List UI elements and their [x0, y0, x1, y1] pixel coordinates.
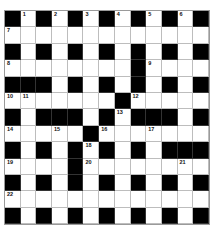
answer-cell[interactable] [21, 208, 37, 224]
answer-cell[interactable]: 4 [115, 11, 131, 27]
answer-cell[interactable] [21, 159, 37, 175]
answer-cell[interactable] [21, 109, 37, 125]
answer-cell[interactable] [178, 44, 194, 60]
answer-cell[interactable] [178, 191, 194, 207]
answer-cell[interactable] [99, 60, 115, 76]
answer-cell[interactable] [115, 27, 131, 43]
answer-cell[interactable] [146, 93, 162, 109]
answer-cell[interactable] [99, 27, 115, 43]
answer-cell[interactable] [83, 77, 99, 93]
answer-cell[interactable] [115, 175, 131, 191]
answer-cell[interactable] [36, 93, 52, 109]
answer-cell[interactable] [146, 27, 162, 43]
answer-cell[interactable]: 18 [83, 142, 99, 158]
answer-cell[interactable] [83, 60, 99, 76]
answer-cell[interactable] [21, 191, 37, 207]
answer-cell[interactable] [178, 208, 194, 224]
answer-cell[interactable] [21, 175, 37, 191]
answer-cell[interactable] [115, 191, 131, 207]
answer-cell[interactable] [99, 93, 115, 109]
answer-cell[interactable] [146, 44, 162, 60]
answer-cell[interactable] [178, 77, 194, 93]
answer-cell[interactable] [178, 93, 194, 109]
answer-cell[interactable] [83, 44, 99, 60]
answer-cell[interactable] [21, 142, 37, 158]
answer-cell[interactable] [52, 44, 68, 60]
answer-cell[interactable] [146, 159, 162, 175]
answer-cell[interactable] [178, 126, 194, 142]
answer-cell[interactable] [52, 27, 68, 43]
answer-cell[interactable] [146, 208, 162, 224]
answer-cell[interactable] [162, 60, 178, 76]
answer-cell[interactable] [178, 27, 194, 43]
answer-cell[interactable] [83, 175, 99, 191]
answer-cell[interactable] [162, 93, 178, 109]
answer-cell[interactable]: 21 [178, 159, 194, 175]
answer-cell[interactable] [36, 159, 52, 175]
answer-cell[interactable] [36, 126, 52, 142]
answer-cell[interactable]: 16 [99, 126, 115, 142]
answer-cell[interactable] [115, 60, 131, 76]
answer-cell[interactable]: 8 [5, 60, 21, 76]
answer-cell[interactable]: 20 [83, 159, 99, 175]
answer-cell[interactable] [68, 27, 84, 43]
answer-cell[interactable] [52, 77, 68, 93]
answer-cell[interactable] [36, 60, 52, 76]
answer-cell[interactable] [193, 191, 209, 207]
answer-cell[interactable] [68, 60, 84, 76]
answer-cell[interactable] [131, 191, 147, 207]
answer-cell[interactable] [131, 159, 147, 175]
answer-cell[interactable] [193, 126, 209, 142]
answer-cell[interactable]: 6 [178, 11, 194, 27]
answer-cell[interactable] [193, 27, 209, 43]
answer-cell[interactable] [193, 60, 209, 76]
answer-cell[interactable] [115, 126, 131, 142]
answer-cell[interactable] [52, 208, 68, 224]
answer-cell[interactable]: 13 [115, 109, 131, 125]
answer-cell[interactable] [52, 142, 68, 158]
answer-cell[interactable] [115, 142, 131, 158]
answer-cell[interactable] [52, 93, 68, 109]
answer-cell[interactable] [162, 159, 178, 175]
answer-cell[interactable]: 15 [52, 126, 68, 142]
answer-cell[interactable] [178, 109, 194, 125]
answer-cell[interactable] [68, 126, 84, 142]
answer-cell[interactable] [83, 93, 99, 109]
answer-cell[interactable]: 11 [21, 93, 37, 109]
answer-cell[interactable]: 9 [146, 60, 162, 76]
answer-cell[interactable] [52, 175, 68, 191]
answer-cell[interactable] [115, 44, 131, 60]
answer-cell[interactable] [162, 27, 178, 43]
answer-cell[interactable]: 3 [83, 11, 99, 27]
answer-cell[interactable] [146, 191, 162, 207]
answer-cell[interactable] [99, 191, 115, 207]
answer-cell[interactable] [162, 191, 178, 207]
answer-cell[interactable]: 1 [21, 11, 37, 27]
answer-cell[interactable]: 10 [5, 93, 21, 109]
answer-cell[interactable] [146, 142, 162, 158]
answer-cell[interactable]: 19 [5, 159, 21, 175]
answer-cell[interactable] [21, 27, 37, 43]
answer-cell[interactable]: 12 [131, 93, 147, 109]
answer-cell[interactable] [52, 191, 68, 207]
answer-cell[interactable] [162, 126, 178, 142]
answer-cell[interactable] [115, 208, 131, 224]
answer-cell[interactable] [115, 159, 131, 175]
answer-cell[interactable] [36, 191, 52, 207]
answer-cell[interactable] [178, 175, 194, 191]
answer-cell[interactable] [83, 191, 99, 207]
answer-cell[interactable] [146, 77, 162, 93]
answer-cell[interactable] [146, 175, 162, 191]
answer-cell[interactable] [68, 191, 84, 207]
answer-cell[interactable]: 14 [5, 126, 21, 142]
answer-cell[interactable] [193, 93, 209, 109]
answer-cell[interactable] [21, 60, 37, 76]
answer-cell[interactable] [99, 159, 115, 175]
answer-cell[interactable]: 17 [146, 126, 162, 142]
answer-cell[interactable] [193, 159, 209, 175]
answer-cell[interactable] [83, 27, 99, 43]
answer-cell[interactable] [52, 159, 68, 175]
answer-cell[interactable] [83, 208, 99, 224]
answer-cell[interactable]: 5 [146, 11, 162, 27]
answer-cell[interactable] [52, 60, 68, 76]
